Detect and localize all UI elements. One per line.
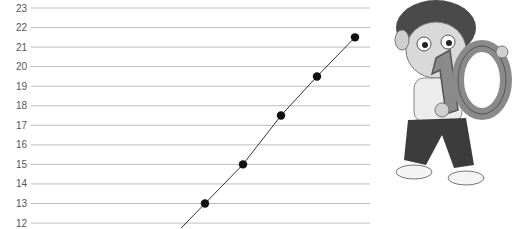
data-point [239, 160, 247, 168]
y-tick-label: 14 [16, 178, 28, 189]
y-tick-label: 20 [16, 61, 28, 72]
boy-holding-ten-illustration [378, 0, 515, 200]
data-point [313, 72, 321, 80]
y-tick-label: 18 [16, 100, 28, 111]
y-tick-label: 21 [16, 42, 28, 53]
plot-area [31, 8, 370, 228]
data-point [277, 111, 285, 119]
y-tick-label: 13 [16, 198, 28, 209]
y-tick-label: 23 [16, 3, 28, 14]
y-tick-label: 22 [16, 22, 28, 33]
data-point [201, 199, 209, 207]
y-tick-label: 19 [16, 81, 28, 92]
data-line [181, 37, 355, 228]
y-tick-label: 12 [16, 218, 28, 228]
y-tick-label: 16 [16, 139, 28, 150]
y-tick-label: 15 [16, 159, 28, 170]
data-point [351, 33, 359, 41]
y-tick-label: 17 [16, 120, 28, 131]
y-axis: 232221201918171615141312 [16, 3, 28, 229]
